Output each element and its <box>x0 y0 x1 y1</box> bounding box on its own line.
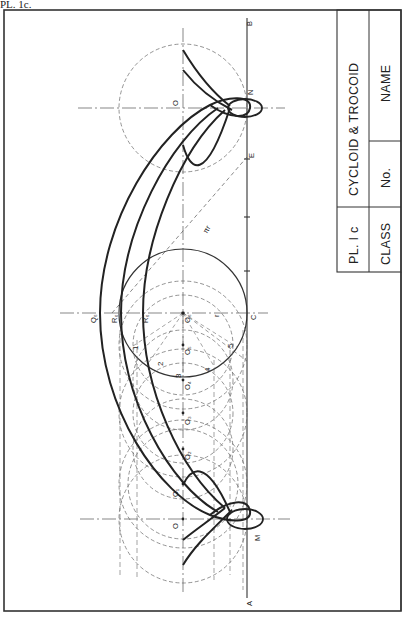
plate-label: PL. 1c. <box>0 0 31 10</box>
label-div-3: 3 <box>174 373 183 378</box>
label-o4: O₄ <box>183 381 192 390</box>
label-q6: Q₆ <box>89 314 98 323</box>
pi-r-diagonal <box>112 157 247 313</box>
label-n: N <box>246 90 255 95</box>
title-block-title: CYCLOID & TROCOID <box>347 63 361 196</box>
title-block-no: No. <box>379 168 393 188</box>
label-o2: O₂ <box>183 451 192 460</box>
radial-line <box>183 313 247 361</box>
label-div-5: 5 <box>226 343 235 348</box>
label-b: B <box>245 21 254 26</box>
label-pi-r: πr <box>201 223 213 235</box>
label-o-top: O <box>171 100 180 106</box>
label-o5: O₅ <box>183 346 192 355</box>
label-c: C <box>249 314 258 320</box>
label-o-bottom: O <box>171 523 180 529</box>
label-div-1: 1 <box>131 345 140 350</box>
title-block-name: NAME <box>379 65 393 102</box>
label-o3: O₃ <box>183 416 192 425</box>
horizontal-centre-lines <box>60 108 290 519</box>
projection-lines <box>120 330 243 590</box>
drawing-labels: A B M N C E O O O₁ O₂ O₃ O₄ O₅ O₆ Q₆ R₆ … <box>89 21 262 606</box>
title-block-plate-no: PL. I c <box>347 226 361 264</box>
label-r6: R₆ <box>110 315 119 323</box>
title-block-class: CLASS <box>379 223 393 266</box>
label-radius: r <box>212 314 221 317</box>
trochoid-curves <box>100 50 250 565</box>
label-o6: O₆ <box>183 314 192 323</box>
label-m: M <box>253 535 262 541</box>
label-r6-inner: R₆ <box>141 315 150 323</box>
label-a: A <box>245 601 254 606</box>
border-frame <box>4 10 401 611</box>
title-block: PL. I c CYCLOID & TROCOID CLASS No. NAME <box>337 10 401 611</box>
label-o1: O₁ <box>171 488 180 497</box>
label-div-2: 2 <box>156 361 165 366</box>
label-div-4: 4 <box>203 367 212 372</box>
drawing-sheet: PL. 1c. PL. I c CYCLOID & TROCOID CLASS … <box>0 0 406 617</box>
label-e: E <box>247 153 256 158</box>
